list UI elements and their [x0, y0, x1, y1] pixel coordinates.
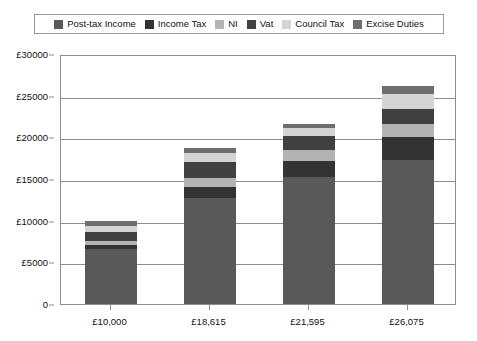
- legend-swatch-icon: [282, 20, 291, 29]
- bar-segment: [283, 161, 335, 177]
- plot-area: [60, 55, 456, 305]
- legend-item: NI: [215, 19, 238, 29]
- y-axis-tick-mark: [49, 180, 54, 181]
- legend-swatch-icon: [353, 20, 362, 29]
- bar-segment: [283, 177, 335, 305]
- bar-stack: [184, 148, 236, 304]
- legend-item: Post-tax Income: [54, 19, 136, 29]
- legend-swatch-icon: [54, 20, 63, 29]
- bar-segment: [85, 245, 137, 249]
- y-axis-tick-label: £30000: [16, 50, 48, 60]
- bar-segment: [85, 226, 137, 232]
- bar-segment: [382, 160, 434, 304]
- legend-item: Vat: [247, 19, 274, 29]
- y-axis-tick-mark: [49, 55, 54, 56]
- bar-segment: [283, 128, 335, 136]
- x-axis-tick-mark: [110, 305, 111, 310]
- x-axis-tick-label: £18,615: [191, 316, 225, 327]
- y-axis-tick-mark: [49, 263, 54, 264]
- bar-segment: [283, 150, 335, 160]
- legend-item-label: Council Tax: [295, 19, 344, 29]
- stacked-bar-chart: Post-tax IncomeIncome TaxNIVatCouncil Ta…: [0, 0, 477, 341]
- x-axis: £10,000£18,615£21,595£26,075: [60, 305, 456, 341]
- bar-segment: [184, 178, 236, 187]
- bar-segment: [184, 187, 236, 198]
- y-axis-tick-mark: [49, 138, 54, 139]
- legend-item-label: Vat: [260, 19, 274, 29]
- bar-segment: [85, 232, 137, 241]
- y-axis-tick-label: 0: [43, 300, 48, 310]
- y-axis-tick-label: £15000: [16, 175, 48, 185]
- bar-stack: [85, 221, 137, 304]
- y-axis-tick-mark: [49, 221, 54, 222]
- x-axis-tick-label: £21,595: [290, 316, 324, 327]
- y-axis-tick-label: £10000: [16, 217, 48, 227]
- legend-item-label: Income Tax: [158, 19, 206, 29]
- legend-swatch-icon: [145, 20, 154, 29]
- legend-item-label: NI: [228, 19, 238, 29]
- y-axis-tick-label: £5000: [22, 258, 48, 268]
- legend-item-label: Post-tax Income: [67, 19, 136, 29]
- x-axis-tick-mark: [209, 305, 210, 310]
- x-axis-tick-mark: [308, 305, 309, 310]
- x-axis-tick-label: £26,075: [389, 316, 423, 327]
- y-axis-tick-mark: [49, 305, 54, 306]
- bar-segment: [283, 124, 335, 128]
- bar-segment: [184, 153, 236, 162]
- legend-item-label: Excise Duties: [366, 19, 424, 29]
- x-axis-tick-mark: [407, 305, 408, 310]
- x-axis-tick-label: £10,000: [92, 316, 126, 327]
- y-axis-tick-label: £20000: [16, 133, 48, 143]
- bar-segment: [283, 136, 335, 150]
- legend-item: Income Tax: [145, 19, 206, 29]
- bar-stack: [283, 124, 335, 304]
- legend-item: Excise Duties: [353, 19, 424, 29]
- bar-segment: [184, 148, 236, 153]
- bar-segment: [85, 221, 137, 226]
- y-axis: 0£5000£10000£15000£20000£25000£30000: [0, 55, 54, 305]
- bar-segment: [184, 198, 236, 304]
- bar-segment: [184, 162, 236, 178]
- bar-segment: [382, 124, 434, 136]
- y-axis-tick-mark: [49, 96, 54, 97]
- bar-segment: [382, 109, 434, 125]
- bar-segment: [382, 137, 434, 160]
- y-axis-tick-label: £25000: [16, 92, 48, 102]
- bar-segment: [382, 86, 434, 95]
- legend-item: Council Tax: [282, 19, 344, 29]
- legend-swatch-icon: [215, 20, 224, 29]
- bar-segment: [382, 94, 434, 108]
- chart-legend: Post-tax IncomeIncome TaxNIVatCouncil Ta…: [34, 14, 444, 34]
- legend-swatch-icon: [247, 20, 256, 29]
- bar-stack: [382, 86, 434, 304]
- bar-segment: [85, 241, 137, 245]
- bar-segment: [85, 249, 137, 304]
